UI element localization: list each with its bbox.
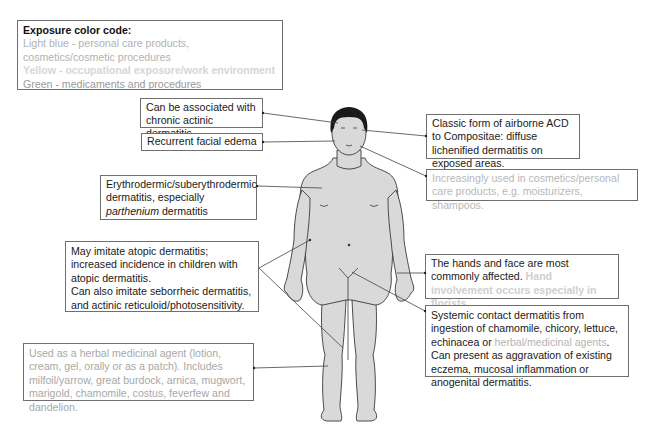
body-figure bbox=[0, 0, 654, 434]
human-body-icon bbox=[284, 111, 413, 421]
